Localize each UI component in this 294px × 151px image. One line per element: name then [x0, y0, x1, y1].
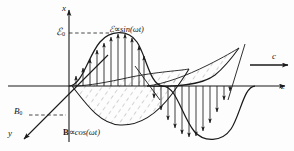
- z-axis-label: z: [281, 82, 285, 91]
- e-amplitude-subscript: 0: [62, 30, 65, 37]
- b-field-lobe-left: [72, 69, 189, 125]
- y-axis-label: y: [8, 129, 12, 138]
- e-field-function: sin(ωt): [120, 24, 144, 34]
- propagation-speed-label: c: [272, 52, 276, 61]
- b-amplitude-subscript: 0: [20, 110, 23, 116]
- b-amplitude-label: B0: [14, 107, 22, 117]
- wave-diagram-canvas: [0, 0, 294, 151]
- em-wave-figure: x y z c ℰ0 B0 ℰ∝sin(ωt) B∝cos(ωt): [0, 0, 294, 151]
- e-amplitude-label: ℰ0: [56, 27, 65, 37]
- x-axis-label: x: [62, 4, 66, 13]
- b-field-function: cos(ωt): [75, 127, 100, 137]
- e-field-equation-label: ℰ∝sin(ωt): [109, 25, 144, 34]
- b-field-equation-label: B∝cos(ωt): [63, 128, 100, 137]
